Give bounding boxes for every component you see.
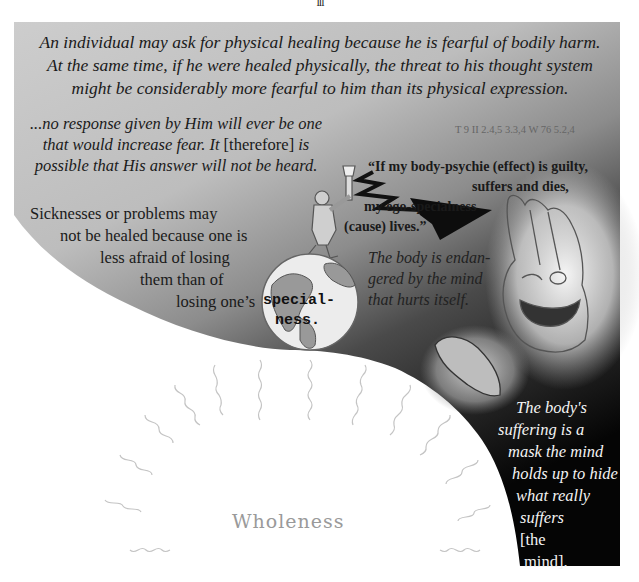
mask-line: holds up to hide: [512, 463, 618, 485]
mask-line: The body's: [516, 397, 618, 419]
sickness-line: them than of: [140, 269, 255, 291]
endangered-text: The body is endan- gered by the mind tha…: [368, 247, 490, 310]
mask-italic: suffers: [520, 507, 618, 529]
response-italic: that would increase fear. It: [43, 135, 224, 154]
mask-line: suffering is a: [498, 419, 618, 441]
response-bracket: [therefore]: [224, 135, 295, 154]
ego-line: “If my body-psychie (effect) is guilty,: [368, 157, 588, 177]
specialness-line: ness.: [275, 311, 335, 331]
ego-quote: “If my body-psychie (effect) is guilty, …: [360, 157, 580, 237]
endangered-line: gered by the mind: [368, 268, 490, 289]
endangered-line: that hurts itself.: [368, 289, 490, 310]
endangered-line: The body is endan-: [368, 247, 490, 268]
ego-line: (cause) lives.”: [344, 217, 564, 237]
wholeness-label: Wholeness: [232, 510, 345, 532]
top-quote: An individual may ask for physical heali…: [20, 31, 620, 100]
mask-text: The body's suffering is a mask the mind …: [500, 397, 618, 573]
mask-line: suffers [the: [520, 507, 618, 551]
response-italic-end: is: [294, 135, 309, 154]
mask-line: mask the mind: [508, 441, 618, 463]
mask-bracket: [the: [520, 529, 618, 551]
response-line: possible that His answer will not be hea…: [26, 155, 326, 176]
response-line: ...no response given by Him will ever be…: [26, 113, 326, 134]
response-line: that would increase fear. It [therefore]…: [26, 134, 326, 155]
sickness-text: Sicknesses or problems may not be healed…: [30, 203, 255, 313]
top-quote-line: At the same time, if he were healed phys…: [20, 54, 620, 77]
specialness-label: special- ness.: [263, 291, 335, 331]
sickness-line: losing one’s: [176, 291, 255, 313]
sickness-line: not be healed because one is: [60, 225, 255, 247]
reference-citation: T 9 II 2.4,5 3.3,4 W 76 5.2,4: [455, 124, 575, 135]
mask-line: mind].: [524, 551, 618, 573]
sickness-line: less afraid of losing: [100, 247, 255, 269]
ego-line: my ego-specialness: [364, 197, 584, 217]
specialness-line: special-: [263, 291, 335, 311]
response-quote: ...no response given by Him will ever be…: [26, 113, 326, 176]
mask-line: what really: [516, 485, 618, 507]
top-quote-line: An individual may ask for physical heali…: [20, 31, 620, 54]
top-quote-line: might be considerably more fearful to hi…: [20, 77, 620, 100]
ego-line: suffers and dies,: [472, 177, 639, 197]
sickness-line: Sicknesses or problems may: [30, 203, 255, 225]
